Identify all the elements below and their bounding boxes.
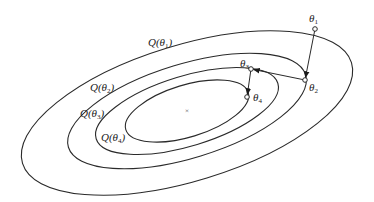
contour-label-q1: Q(θ1)	[148, 36, 173, 50]
iterate-points	[245, 27, 318, 100]
contour-labels: Q(θ1)Q(θ2)Q(θ3)Q(θ4)	[80, 36, 173, 145]
step-arrow-theta2-to-theta3	[253, 69, 305, 80]
step-arrow-theta1-to-theta2	[305, 29, 315, 78]
point-label-theta1: θ1	[309, 12, 318, 26]
optimization-contour-diagram: Q(θ1)Q(θ2)Q(θ3)Q(θ4) θ1θ2θ3θ4 ×	[0, 0, 374, 202]
point-labels: θ1θ2θ3θ4	[240, 12, 318, 105]
point-label-theta4: θ4	[253, 91, 262, 105]
step-arrow-theta3-to-theta4	[247, 69, 251, 95]
point-theta1	[313, 27, 318, 32]
minimum-marker: ×	[185, 107, 189, 115]
contour-label-q3: Q(θ3)	[80, 107, 105, 121]
point-label-theta2: θ2	[309, 81, 318, 95]
point-theta2	[303, 78, 308, 83]
point-theta3	[249, 67, 254, 72]
step-arrows	[247, 29, 315, 95]
point-label-theta3: θ3	[240, 57, 249, 71]
point-theta4	[245, 95, 250, 100]
contour-label-q4: Q(θ4)	[101, 131, 126, 145]
contour-label-q2: Q(θ2)	[90, 81, 115, 95]
